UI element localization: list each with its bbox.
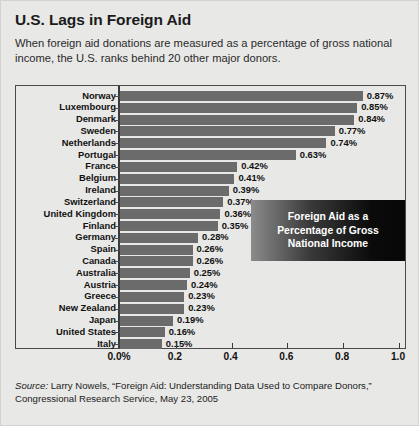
x-axis-tick-label: 1.0 (391, 351, 405, 362)
bar-category-label: Luxembourg (16, 101, 116, 113)
bar-value-label: 0.37% (227, 196, 254, 208)
bar (120, 233, 198, 243)
bar (120, 256, 193, 266)
bar-category-label: Norway (16, 90, 116, 102)
bar-value-label: 0.87% (367, 90, 394, 102)
x-axis-tick-label: 0.0% (107, 351, 130, 362)
bar-category-label: Portugal (16, 149, 116, 161)
bar (120, 103, 357, 113)
bar-category-label: Finland (16, 220, 116, 232)
bar-value-label: 0.74% (330, 137, 357, 149)
bar (120, 339, 162, 349)
x-axis-tick (343, 343, 344, 348)
bar-row: Austria0.24% (16, 279, 405, 291)
plot-area: Norway0.87%Luxembourg0.85%Denmark0.84%Sw… (15, 85, 406, 349)
bar-row: Belgium0.41% (16, 173, 405, 185)
callout-line-1: Foreign Aid as a (277, 210, 379, 224)
bar (120, 280, 187, 290)
bar-category-label: Switzerland (16, 196, 116, 208)
bar-value-label: 0.77% (339, 125, 366, 137)
chart-figure: U.S. Lags in Foreign Aid When foreign ai… (0, 0, 419, 426)
x-axis-tick-label: 0.2 (168, 351, 182, 362)
bar-category-label: New Zealand (16, 302, 116, 314)
bar-value-label: 0.16% (169, 326, 196, 338)
bar-value-label: 0.26% (197, 243, 224, 255)
bar (120, 327, 165, 337)
bar (120, 186, 229, 196)
bar-row: New Zealand0.23% (16, 303, 405, 315)
bar-value-label: 0.24% (191, 279, 218, 291)
bar-category-label: Netherlands (16, 137, 116, 149)
callout-line-3: National Income (277, 237, 379, 251)
bar-category-label: Australia (16, 267, 116, 279)
bar-value-label: 0.41% (238, 172, 265, 184)
bar-row: United States0.16% (16, 326, 405, 338)
bar-row: Portugal0.63% (16, 149, 405, 161)
bar-value-label: 0.84% (358, 113, 385, 125)
bar-category-label: Canada (16, 255, 116, 267)
bar-row: France0.42% (16, 161, 405, 173)
bar (120, 292, 184, 302)
bar-row: Netherlands0.74% (16, 137, 405, 149)
bar-value-label: 0.28% (202, 231, 229, 243)
bar (120, 316, 173, 326)
bar (120, 197, 223, 207)
bar-row: Denmark0.84% (16, 114, 405, 126)
bar-value-label: 0.25% (194, 267, 221, 279)
bar-value-label: 0.85% (361, 101, 388, 113)
bar-row: Ireland0.39% (16, 185, 405, 197)
x-axis-tick (399, 343, 400, 348)
bar-category-label: Ireland (16, 184, 116, 196)
bar-row: Australia0.25% (16, 267, 405, 279)
callout-box: Foreign Aid as a Percentage of Gross Nat… (251, 200, 405, 260)
bar-row: Sweden0.77% (16, 125, 405, 137)
bar-value-label: 0.63% (300, 149, 327, 161)
chart-subtitle: When foreign aid donations are measured … (15, 36, 407, 66)
x-axis-tick (176, 343, 177, 348)
bar-row: Luxembourg0.85% (16, 102, 405, 114)
bar-row: Norway0.87% (16, 90, 405, 102)
bar-category-label: Spain (16, 243, 116, 255)
bar-category-label: France (16, 160, 116, 172)
bar-value-label: 0.36% (224, 208, 251, 220)
bar-category-label: Italy (16, 338, 116, 350)
bar (120, 150, 296, 160)
bar-category-label: United States (16, 326, 116, 338)
bar-category-label: Japan (16, 314, 116, 326)
bar-row: Greece0.23% (16, 291, 405, 303)
bar-category-label: Sweden (16, 125, 116, 137)
bar-value-label: 0.42% (241, 160, 268, 172)
x-axis-tick-labels: 0.0%0.20.40.60.81.0 (15, 351, 406, 367)
bar-category-label: Germany (16, 231, 116, 243)
x-axis-tick (232, 343, 233, 348)
bar (120, 91, 363, 101)
source-note: Source: Larry Nowels, “Foreign Aid: Unde… (15, 379, 407, 405)
source-label: Source: (15, 380, 48, 391)
bar (120, 209, 220, 219)
page-title: U.S. Lags in Foreign Aid (15, 11, 191, 29)
source-text: Larry Nowels, “Foreign Aid: Understandin… (15, 380, 372, 404)
bar (120, 174, 234, 184)
bar (120, 268, 190, 278)
bar (120, 126, 335, 136)
bar-value-label: 0.35% (222, 220, 249, 232)
bar-category-label: United Kingdom (16, 208, 116, 220)
bar-row: Italy0.15% (16, 338, 405, 350)
bar (120, 245, 193, 255)
bar (120, 221, 218, 231)
bar-value-label: 0.15% (166, 338, 193, 350)
bar (120, 162, 237, 172)
x-axis-tick (287, 343, 288, 348)
bar-value-label: 0.23% (188, 302, 215, 314)
bar (120, 115, 354, 125)
bar-category-label: Greece (16, 290, 116, 302)
bar-value-label: 0.23% (188, 290, 215, 302)
x-axis-tick-label: 0.4 (224, 351, 238, 362)
x-axis-tick-label: 0.8 (335, 351, 349, 362)
bar-category-label: Belgium (16, 172, 116, 184)
bar-category-label: Austria (16, 279, 116, 291)
bar-category-label: Denmark (16, 113, 116, 125)
bar-row: Japan0.19% (16, 315, 405, 327)
bar-value-label: 0.26% (197, 255, 224, 267)
bar (120, 304, 184, 314)
